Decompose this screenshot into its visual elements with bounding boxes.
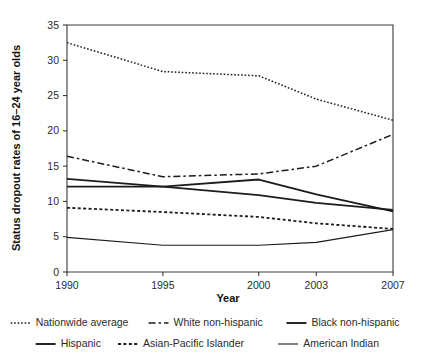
- x-tick-label: 2007: [381, 279, 405, 291]
- dropout-rate-line-chart: Status dropout rates of 16–24 year olds …: [0, 0, 422, 360]
- legend-label-american-indian: American Indian: [303, 337, 379, 349]
- x-tick-label: 2003: [305, 279, 329, 291]
- series-line-american-indian: [67, 230, 393, 246]
- axis-frame: [67, 25, 393, 272]
- y-tick-label: 25: [47, 89, 59, 101]
- series-line-black-non-hispanic: [67, 179, 393, 211]
- x-axis-title: Year: [216, 292, 240, 304]
- y-tick-label: 30: [47, 54, 59, 66]
- legend-label-hispanic: Hispanic: [61, 337, 101, 349]
- x-axis-ticks: 19901995200020032007: [55, 272, 405, 291]
- legend-label-asian-pacific-islander: Asian-Pacific Islander: [143, 337, 244, 349]
- plot-frame: [67, 25, 393, 272]
- y-tick-label: 20: [47, 124, 59, 136]
- y-tick-label: 5: [53, 230, 59, 242]
- y-axis-title-group: Status dropout rates of 16–24 year olds: [10, 45, 22, 251]
- x-tick-label: 1995: [151, 279, 175, 291]
- y-tick-label: 35: [47, 19, 59, 31]
- series-lines: [67, 43, 393, 246]
- legend-label-black-non-hispanic: Black non-hispanic: [311, 316, 399, 328]
- y-tick-label: 15: [47, 160, 59, 172]
- x-tick-label: 2000: [247, 279, 271, 291]
- x-tick-label: 1990: [55, 279, 79, 291]
- y-tick-label: 0: [53, 266, 59, 278]
- legend-label-white-non-hispanic: White non-hispanic: [174, 316, 263, 328]
- legend-label-nationwide-average: Nationwide average: [36, 316, 129, 328]
- series-line-asian-pacific-islander: [67, 208, 393, 229]
- series-line-white-non-hispanic: [67, 134, 393, 176]
- y-axis-ticks: 05101520253035: [47, 19, 67, 278]
- chart-legend: Nationwide averageWhite non-hispanicBlac…: [11, 316, 400, 349]
- series-line-hispanic: [67, 187, 393, 210]
- y-tick-label: 10: [47, 195, 59, 207]
- chart-canvas: Status dropout rates of 16–24 year olds …: [0, 0, 422, 360]
- series-line-nationwide-average: [67, 43, 393, 121]
- y-axis-title: Status dropout rates of 16–24 year olds: [10, 45, 22, 251]
